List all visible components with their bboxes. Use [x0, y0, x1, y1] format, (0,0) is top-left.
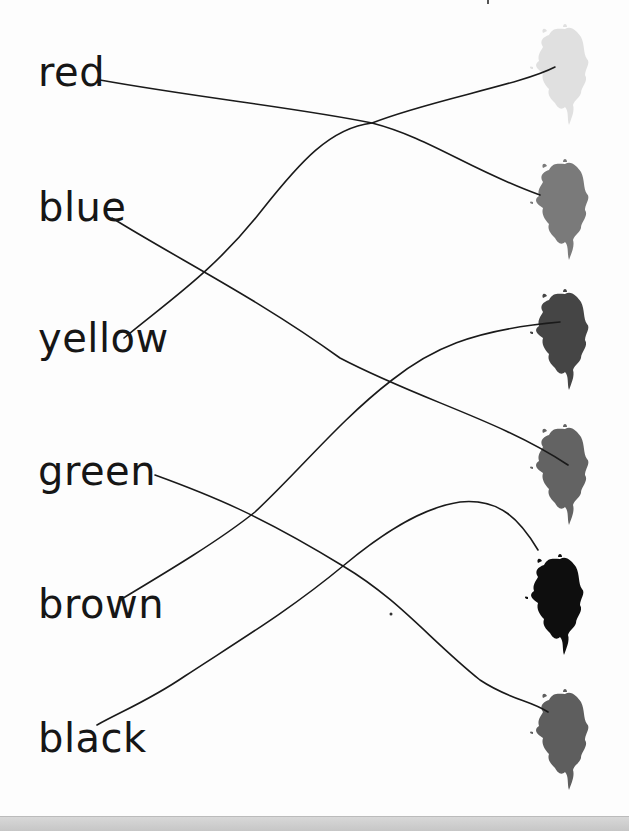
line-brown-to-splat-3	[120, 322, 560, 600]
scan-mark	[487, 0, 489, 4]
paint-splat-3[interactable]	[530, 289, 588, 390]
stray-mark	[390, 613, 393, 616]
paint-splat-6[interactable]	[530, 689, 588, 790]
paint-splat-5[interactable]	[525, 554, 583, 655]
scan-bottom-edge	[0, 816, 629, 831]
line-red-to-splat-2	[100, 80, 540, 195]
line-green-to-splat-6	[155, 475, 548, 712]
line-yellow-to-splat-1	[124, 67, 555, 338]
line-black-to-splat-5	[97, 502, 538, 725]
line-blue-to-splat-4	[112, 218, 568, 465]
paint-splat-4[interactable]	[530, 424, 588, 525]
paint-splat-2[interactable]	[530, 159, 588, 260]
